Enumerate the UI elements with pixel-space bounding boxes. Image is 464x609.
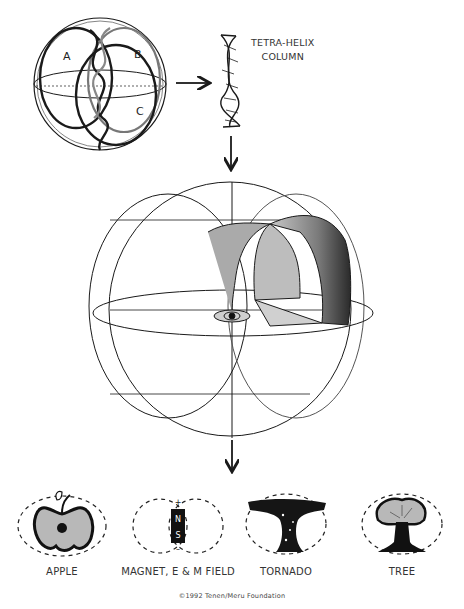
magnet-s-label: S: [175, 531, 180, 540]
caption-tree: TREE: [362, 566, 442, 577]
tetra-helix-column: [221, 35, 240, 127]
torus-sphere-diagram: [89, 182, 373, 438]
tree-icon: [362, 494, 442, 554]
magnet-n-label: N: [175, 515, 181, 524]
tetra-helix-label-line2: COLUMN: [251, 50, 315, 64]
copyright-notice: ©1992 Tenen/Meru Foundation: [0, 592, 464, 600]
caption-magnet: MAGNET, E & M FIELD: [118, 566, 238, 577]
sphere-label-a: A: [63, 50, 71, 63]
apple-icon: [18, 491, 106, 556]
sphere-label-c: C: [136, 105, 144, 118]
sphere-label-b: B: [134, 48, 142, 61]
plus-label: +: [175, 498, 182, 507]
magnet-field-icon: N S + –: [133, 498, 223, 554]
tornado-icon: [246, 494, 326, 554]
caption-apple: APPLE: [22, 566, 102, 577]
sphere-abc-diagram: [34, 18, 166, 150]
minus-label: –: [176, 545, 180, 554]
tetra-helix-label-line1: TETRA-HELIX: [251, 36, 315, 50]
diagram-canvas: A B C: [0, 0, 464, 609]
caption-tornado: TORNADO: [246, 566, 326, 577]
tetra-helix-label: TETRA-HELIX COLUMN: [251, 36, 315, 64]
